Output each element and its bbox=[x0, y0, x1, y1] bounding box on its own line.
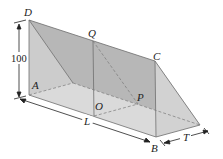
label-L: L bbox=[83, 115, 90, 127]
arrow-right-icon bbox=[203, 130, 208, 134]
prism-diagram: D Q C A O P L B T 100 bbox=[0, 0, 223, 159]
label-P: P bbox=[136, 91, 144, 103]
arrow-left-icon bbox=[20, 99, 26, 103]
arrow-left-icon bbox=[164, 140, 170, 144]
label-T: T bbox=[183, 131, 190, 143]
label-height-100: 100 bbox=[11, 53, 27, 64]
label-A: A bbox=[31, 79, 39, 91]
arrow-down-icon bbox=[17, 92, 21, 97]
arrow-right-icon bbox=[144, 138, 150, 142]
label-D: D bbox=[23, 6, 32, 18]
label-C: C bbox=[153, 50, 161, 62]
label-Q: Q bbox=[88, 27, 96, 39]
arrow-up-icon bbox=[17, 24, 21, 29]
right-end-face bbox=[155, 61, 200, 137]
label-B: B bbox=[151, 142, 158, 154]
label-O: O bbox=[95, 100, 103, 112]
